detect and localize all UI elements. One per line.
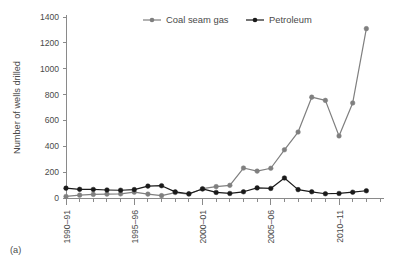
data-point-marker [132, 187, 137, 192]
data-point-marker [159, 193, 164, 198]
data-point-marker [241, 189, 246, 194]
data-point-marker [282, 176, 287, 181]
data-point-marker [200, 187, 205, 192]
data-point-marker [173, 190, 178, 195]
series-layer [64, 26, 369, 198]
x-tick-label: 1995–96 [130, 210, 140, 244]
data-point-marker [64, 186, 69, 191]
y-tick-label: 1000 [40, 64, 59, 74]
x-tick-label: 2010–11 [335, 210, 345, 243]
data-point-marker [323, 98, 328, 103]
figure-container: 0200400600800100012001400 1990–911995–96… [0, 0, 394, 268]
data-point-marker [187, 191, 192, 196]
data-point-marker [255, 169, 260, 174]
data-point-marker [364, 188, 369, 193]
panel-label: (a) [10, 245, 21, 255]
data-point-marker [337, 191, 342, 196]
data-point-marker [105, 188, 110, 193]
data-point-marker [296, 187, 301, 192]
data-point-marker [282, 147, 287, 152]
y-tick-label: 800 [45, 90, 60, 100]
legend-item-petroleum[interactable]: Petroleum [246, 14, 312, 25]
legend-item-coal-seam-gas[interactable]: Coal seam gas [143, 14, 229, 25]
x-tick-label: 2005–06 [266, 210, 276, 244]
y-tick-label: 0 [54, 193, 59, 203]
data-point-marker [118, 188, 123, 193]
data-point-marker [350, 101, 355, 106]
y-tick-label: 400 [45, 141, 60, 151]
y-tick-label: 600 [45, 115, 60, 125]
data-point-marker [309, 189, 314, 194]
x-axis-ticks: 1990–911995–962000–012005–062010–11 [62, 198, 381, 243]
series-line [66, 29, 366, 197]
data-point-marker [146, 192, 151, 197]
data-point-marker [77, 187, 82, 192]
legend-label: Coal seam gas [166, 14, 229, 25]
data-point-marker [228, 191, 233, 196]
series-coal-seam-gas [64, 26, 369, 198]
legend-marker-icon [253, 18, 258, 23]
data-point-marker [91, 187, 96, 192]
data-point-marker [337, 134, 342, 139]
data-point-marker [255, 186, 260, 191]
y-tick-label: 1200 [40, 38, 59, 48]
data-point-marker [91, 192, 96, 197]
data-point-marker [364, 26, 369, 31]
data-point-marker [214, 184, 219, 189]
data-point-marker [146, 184, 151, 189]
data-point-marker [241, 166, 246, 171]
data-point-marker [77, 193, 82, 198]
data-point-marker [296, 130, 301, 135]
data-point-marker [268, 166, 273, 171]
x-tick-label: 2000–01 [198, 210, 208, 244]
data-point-marker [323, 191, 328, 196]
y-axis-title: Number of wells drilled [12, 61, 22, 154]
data-point-marker [214, 190, 219, 195]
data-point-marker [228, 183, 233, 188]
legend-marker-icon [150, 18, 155, 23]
chart-legend: Coal seam gasPetroleum [143, 14, 312, 25]
y-axis-ticks: 0200400600800100012001400 [40, 12, 66, 203]
data-point-marker [64, 194, 69, 199]
data-point-marker [159, 183, 164, 188]
data-point-marker [268, 186, 273, 191]
legend-label: Petroleum [269, 14, 312, 25]
y-tick-label: 1400 [40, 12, 59, 22]
line-chart: 0200400600800100012001400 1990–911995–96… [0, 0, 394, 268]
x-tick-label: 1990–91 [62, 210, 72, 244]
y-tick-label: 200 [45, 167, 60, 177]
data-point-marker [350, 190, 355, 195]
data-point-marker [309, 95, 314, 100]
